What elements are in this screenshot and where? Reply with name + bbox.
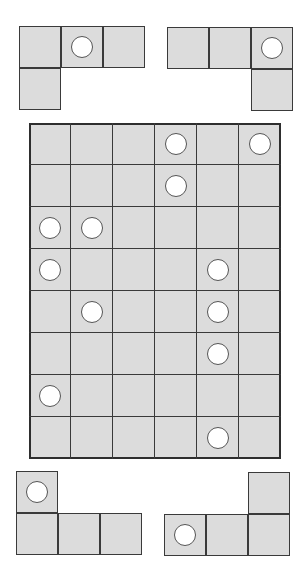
circle-marker-icon — [165, 133, 187, 155]
board-cell[interactable] — [239, 417, 281, 459]
board-cell[interactable] — [113, 375, 155, 417]
piece-cell — [16, 471, 58, 513]
piece-cell — [103, 26, 145, 68]
board-cell[interactable] — [71, 249, 113, 291]
circle-marker-icon — [26, 481, 48, 503]
board-cell[interactable] — [239, 333, 281, 375]
piece-cell — [251, 69, 293, 111]
board-cell[interactable] — [197, 333, 239, 375]
board-cell[interactable] — [29, 375, 71, 417]
board-cell[interactable] — [29, 165, 71, 207]
piece-cell — [19, 68, 61, 110]
board-cell[interactable] — [239, 207, 281, 249]
board-cell[interactable] — [29, 207, 71, 249]
piece-cell — [58, 513, 100, 555]
board-cell[interactable] — [29, 123, 71, 165]
board-cell[interactable] — [239, 165, 281, 207]
board-cell[interactable] — [29, 417, 71, 459]
board-cell[interactable] — [71, 333, 113, 375]
puzzle-board — [29, 123, 281, 459]
piece-cell — [19, 26, 61, 68]
board-cell[interactable] — [197, 249, 239, 291]
piece-cell — [100, 513, 142, 555]
board-cell[interactable] — [113, 165, 155, 207]
board-cell[interactable] — [113, 291, 155, 333]
circle-marker-icon — [261, 37, 283, 59]
board-cell[interactable] — [71, 417, 113, 459]
board-cell[interactable] — [29, 291, 71, 333]
circle-marker-icon — [165, 175, 187, 197]
piece-cell — [248, 514, 290, 556]
piece-cell — [167, 27, 209, 69]
board-cell[interactable] — [155, 291, 197, 333]
board-cell[interactable] — [71, 291, 113, 333]
board-cell[interactable] — [239, 123, 281, 165]
circle-marker-icon — [207, 343, 229, 365]
circle-marker-icon — [249, 133, 271, 155]
board-cell[interactable] — [197, 123, 239, 165]
circle-marker-icon — [39, 217, 61, 239]
board-cell[interactable] — [113, 207, 155, 249]
board-cell[interactable] — [71, 123, 113, 165]
board-cell[interactable] — [155, 165, 197, 207]
board-cell[interactable] — [113, 417, 155, 459]
board-cell[interactable] — [197, 165, 239, 207]
board-cell[interactable] — [155, 417, 197, 459]
board-cell[interactable] — [113, 123, 155, 165]
piece-cell — [61, 26, 103, 68]
board-cell[interactable] — [71, 165, 113, 207]
board-cell[interactable] — [155, 249, 197, 291]
circle-marker-icon — [71, 36, 93, 58]
circle-marker-icon — [39, 385, 61, 407]
board-cell[interactable] — [71, 207, 113, 249]
board-cell[interactable] — [155, 207, 197, 249]
board-cell[interactable] — [197, 291, 239, 333]
circle-marker-icon — [81, 217, 103, 239]
circle-marker-icon — [207, 427, 229, 449]
piece-cell — [164, 514, 206, 556]
board-cell[interactable] — [29, 249, 71, 291]
board-cell[interactable] — [239, 249, 281, 291]
board-cell[interactable] — [155, 333, 197, 375]
circle-marker-icon — [39, 259, 61, 281]
board-cell[interactable] — [29, 333, 71, 375]
board-cell[interactable] — [239, 291, 281, 333]
circle-marker-icon — [81, 301, 103, 323]
piece-cell — [251, 27, 293, 69]
circle-marker-icon — [207, 301, 229, 323]
board-cell[interactable] — [71, 375, 113, 417]
piece-cell — [248, 472, 290, 514]
board-cell[interactable] — [113, 249, 155, 291]
board-cell[interactable] — [239, 375, 281, 417]
circle-marker-icon — [207, 259, 229, 281]
board-cell[interactable] — [113, 333, 155, 375]
board-cell[interactable] — [155, 123, 197, 165]
piece-cell — [209, 27, 251, 69]
piece-cell — [206, 514, 248, 556]
board-cell[interactable] — [155, 375, 197, 417]
piece-cell — [16, 513, 58, 555]
board-cell[interactable] — [197, 417, 239, 459]
board-cell[interactable] — [197, 375, 239, 417]
circle-marker-icon — [174, 524, 196, 546]
board-cell[interactable] — [197, 207, 239, 249]
